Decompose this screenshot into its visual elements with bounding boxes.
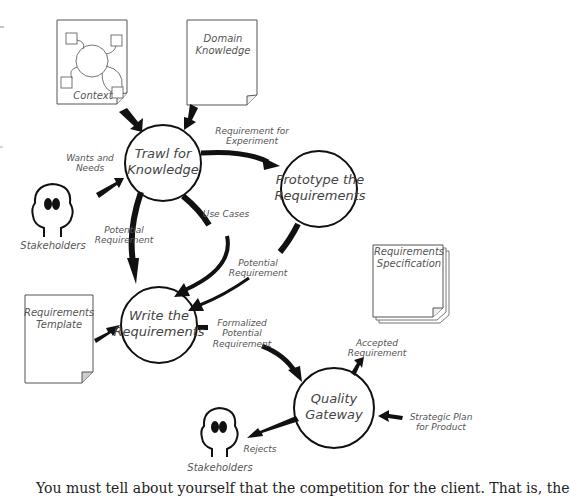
gateway-process-label: Quality Gateway xyxy=(296,391,372,422)
flow-label-formalized: Formalized Potential Requirement xyxy=(210,318,274,349)
flow-label-use-cases: Use Cases xyxy=(196,209,256,219)
req-experiment-line2: Experiment xyxy=(212,136,292,146)
footer-body-text: You must tell about yourself that the co… xyxy=(36,480,570,496)
flow-label-potential-left: Potential Requirement xyxy=(92,225,156,246)
arrow-gateway-to-spec xyxy=(351,357,364,376)
req-experiment-line1: Requirement for xyxy=(212,126,292,136)
accepted-line2: Requirement xyxy=(346,348,408,358)
write-label-line1: Write the xyxy=(113,308,205,324)
trawl-label-line2: Knowledge xyxy=(125,162,201,178)
strategic-line2: for Product xyxy=(404,422,478,432)
domain-doc-label: Domain Knowledge xyxy=(190,33,256,56)
prototype-label-line1: Prototype the xyxy=(274,172,366,188)
arrow-domain-to-trawl xyxy=(184,104,198,130)
template-doc-label: Requirements Template xyxy=(24,307,94,330)
stakeholders-bottom-label: Stakeholders xyxy=(184,462,256,474)
prototype-process-label: Prototype the Requirements xyxy=(274,172,366,203)
strategic-line1: Strategic Plan xyxy=(404,412,478,422)
wants-needs-line1: Wants and xyxy=(62,153,118,163)
potential-left-line1: Potential xyxy=(92,225,156,235)
stakeholders-top-label: Stakeholders xyxy=(18,240,88,252)
spec-doc-label: Requirements Specification xyxy=(373,246,445,269)
flow-label-requirement-for-experiment: Requirement for Experiment xyxy=(212,126,292,147)
formalized-line3: Requirement xyxy=(210,339,274,349)
gateway-label-line1: Quality xyxy=(296,391,372,407)
template-label-line2: Template xyxy=(24,319,94,331)
wants-needs-line2: Needs xyxy=(62,163,118,173)
trawl-process-label: Trawl for Knowledge xyxy=(125,146,201,177)
arrow-gateway-to-stakeholders xyxy=(247,416,299,438)
domain-label-line2: Knowledge xyxy=(190,45,256,57)
flow-label-rejects: Rejects xyxy=(240,444,280,454)
template-label-line1: Requirements xyxy=(24,307,94,319)
write-process-label: Write the Requirements xyxy=(113,308,205,339)
stakeholder-head-icon xyxy=(32,184,72,237)
arrow-wants-to-trawl xyxy=(96,178,124,198)
formalized-line2: Potential xyxy=(210,328,274,338)
gateway-label-line2: Gateway xyxy=(296,407,372,423)
spec-label-line2: Specification xyxy=(373,258,445,270)
arrow-context-to-trawl xyxy=(119,108,143,132)
arrow-write-to-gateway xyxy=(262,346,295,372)
potential-right-line1: Potential xyxy=(226,258,290,268)
formalized-line1: Formalized xyxy=(210,318,274,328)
domain-label-line1: Domain xyxy=(190,33,256,45)
flow-label-accepted: Accepted Requirement xyxy=(346,338,408,359)
write-label-line2: Requirements xyxy=(113,324,205,340)
flow-label-potential-right: Potential Requirement xyxy=(226,258,290,279)
arrow-trawl-to-prototype xyxy=(201,152,268,162)
flow-label-wants-needs: Wants and Needs xyxy=(62,153,118,174)
trawl-label-line1: Trawl for xyxy=(125,146,201,162)
potential-left-line2: Requirement xyxy=(92,235,156,245)
flow-label-strategic-plan: Strategic Plan for Product xyxy=(404,412,478,433)
stakeholder-head-icon xyxy=(201,408,237,457)
arrow-strategic-to-gateway xyxy=(378,410,403,422)
potential-right-line2: Requirement xyxy=(226,268,290,278)
accepted-line1: Accepted xyxy=(346,338,408,348)
prototype-label-line2: Requirements xyxy=(274,188,366,204)
spec-label-line1: Requirements xyxy=(373,246,445,258)
context-doc-label: Context xyxy=(73,90,113,102)
